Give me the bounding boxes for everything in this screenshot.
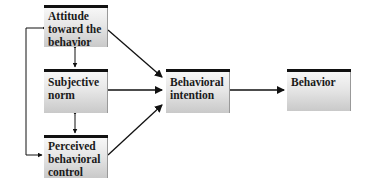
node-norm-line1: Subjective: [48, 76, 104, 89]
arrow-attitude-to-intention: [108, 30, 162, 77]
node-attitude-line1: Attitude: [48, 10, 104, 23]
node-behavior-line1: Behavior: [291, 76, 347, 89]
arrow-attitude-control-bidirectional: [26, 28, 42, 155]
node-behavior: Behavior: [287, 69, 351, 111]
node-control-line1: Perceived: [48, 140, 104, 153]
node-behavioral-intention: Behavioral intention: [166, 69, 230, 113]
node-subjective-norm: Subjective norm: [44, 69, 108, 113]
node-control-line2: behavioral: [48, 153, 104, 166]
arrow-control-to-intention: [108, 105, 162, 155]
node-control-line3: control: [48, 166, 104, 179]
node-intention-line1: Behavioral: [170, 76, 226, 89]
node-attitude-line2: toward the: [48, 23, 104, 36]
node-intention-line2: intention: [170, 89, 226, 102]
node-attitude: Attitude toward the behavior: [44, 5, 108, 47]
node-attitude-line3: behavior: [48, 36, 104, 49]
node-perceived-control: Perceived behavioral control: [44, 135, 108, 178]
node-norm-line2: norm: [48, 89, 104, 102]
